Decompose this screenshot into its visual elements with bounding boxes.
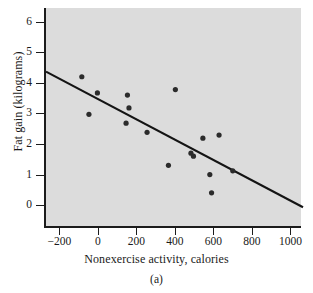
data-point — [191, 154, 196, 159]
data-point — [216, 133, 221, 138]
data-point — [126, 105, 131, 110]
x-axis-tick-label: 600 — [191, 236, 235, 248]
y-axis-tick — [36, 144, 44, 145]
data-point — [123, 121, 128, 126]
panel-caption: (a) — [0, 273, 313, 285]
x-axis-tick-label: 800 — [230, 236, 274, 248]
y-axis-tick — [36, 205, 44, 206]
x-axis-tick — [59, 228, 60, 235]
data-point — [230, 168, 235, 173]
x-axis-tick — [290, 228, 291, 235]
x-axis-tick-label: 0 — [76, 236, 120, 248]
data-point — [125, 92, 130, 97]
plot-area — [44, 8, 301, 228]
x-axis-tick-label: 400 — [153, 236, 197, 248]
x-axis-tick — [252, 228, 253, 235]
data-point — [200, 136, 205, 141]
data-point — [86, 112, 91, 117]
data-point — [173, 87, 178, 92]
data-point — [207, 172, 212, 177]
y-axis-tick — [36, 83, 44, 84]
y-axis-title: Fat gain (kilograms) — [11, 22, 26, 182]
x-axis-tick — [98, 228, 99, 235]
x-axis-title: Nonexercise activity, calories — [0, 252, 313, 267]
x-axis-tick — [175, 228, 176, 235]
data-point — [144, 130, 149, 135]
x-axis-tick-label: 1000 — [268, 236, 312, 248]
y-axis-tick — [36, 113, 44, 114]
data-point — [95, 90, 100, 95]
x-axis-tick — [213, 228, 214, 235]
data-points — [79, 74, 235, 195]
y-axis-tick-label: 0 — [8, 199, 32, 211]
data-point — [166, 163, 171, 168]
y-axis-tick — [36, 22, 44, 23]
scatter-plot-figure: 0123456 −20002004006008001000 Fat gain (… — [0, 0, 313, 293]
x-axis-tick-label: 200 — [114, 236, 158, 248]
x-axis-tick-label: −200 — [37, 236, 81, 248]
plot-canvas — [46, 8, 303, 228]
data-point — [79, 74, 84, 79]
data-point — [209, 190, 214, 195]
x-axis-tick — [136, 228, 137, 235]
y-axis-tick — [36, 175, 44, 176]
y-axis-tick — [36, 52, 44, 53]
